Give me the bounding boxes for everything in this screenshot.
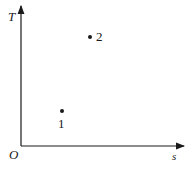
point-1-label: 1 <box>58 116 65 131</box>
ts-diagram: T O s 2 1 <box>0 0 193 173</box>
y-axis-label: T <box>8 9 16 24</box>
origin-label: O <box>9 147 19 162</box>
point-1 <box>60 109 64 113</box>
point-2-label: 2 <box>96 29 103 44</box>
point-2 <box>88 35 92 39</box>
x-axis-label: s <box>172 150 176 162</box>
